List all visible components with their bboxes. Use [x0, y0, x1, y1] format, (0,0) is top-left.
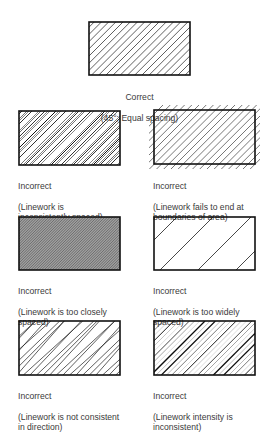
caption-verdict: Incorrect [153, 181, 264, 192]
panel-fails-to-end: Incorrect (Linework fails to end at boun… [148, 104, 264, 233]
hatch-too-wide-figure [153, 216, 256, 271]
caption-verdict: Incorrect [153, 391, 256, 402]
caption-verdict: Incorrect [18, 181, 121, 192]
hatch-inconsistent-intensity-figure [153, 320, 256, 376]
panel-inconsistent-spacing: Incorrect (Linework is inconsistently sp… [18, 110, 121, 233]
caption-inconsistent-direction: Incorrect (Linework is not consistent in… [18, 380, 121, 436]
caption-verdict: Incorrect [153, 286, 256, 297]
hatch-inconsistent-spacing-figure [18, 110, 121, 166]
hatch-too-close-figure [18, 216, 121, 271]
panel-inconsistent-intensity: Incorrect (Linework intensity is inconsi… [153, 320, 256, 436]
caption-inconsistent-intensity: Incorrect (Linework intensity is inconsi… [153, 380, 256, 436]
hatch-inconsistent-direction-figure [18, 320, 121, 376]
panel-inconsistent-direction: Incorrect (Linework is not consistent in… [18, 320, 121, 436]
hatch-fails-to-end-figure [148, 104, 264, 172]
caption-detail: (Linework intensity is inconsistent) [153, 412, 256, 433]
caption-detail: (Linework is not consistent in direction… [18, 412, 121, 433]
caption-verdict: Incorrect [18, 391, 121, 402]
caption-verdict: Incorrect [18, 286, 121, 297]
hatch-correct-figure [88, 21, 191, 76]
caption-verdict: Correct [88, 92, 191, 103]
